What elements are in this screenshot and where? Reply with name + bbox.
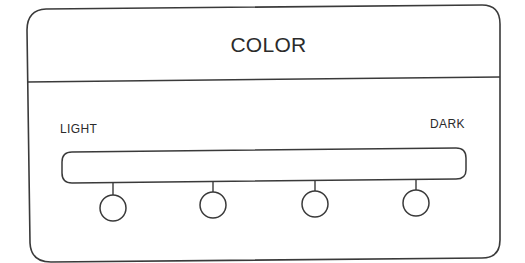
slider-start-label: LIGHT [60, 123, 97, 135]
slider-position-1[interactable] [100, 182, 126, 221]
header-divider [27, 77, 500, 82]
slider-position-2[interactable] [200, 181, 226, 218]
color-control-diagram: COLOR LIGHT DARK [0, 0, 525, 263]
slider-position-4[interactable] [403, 179, 429, 216]
position-knob-1[interactable] [100, 195, 126, 221]
slider-track[interactable] [62, 148, 466, 183]
position-knob-3[interactable] [302, 191, 328, 217]
position-knob-4[interactable] [403, 190, 429, 216]
panel-title: COLOR [0, 34, 525, 55]
slider-end-label: DARK [430, 118, 465, 130]
slider-position-3[interactable] [302, 180, 328, 217]
position-knob-2[interactable] [200, 192, 226, 218]
